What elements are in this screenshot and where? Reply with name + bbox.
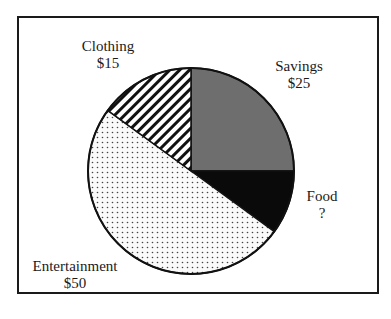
label-entertainment: Entertainment $50	[16, 258, 134, 292]
pie-slices	[88, 68, 294, 274]
label-savings: Savings $25	[254, 58, 344, 92]
label-clothing-name: Clothing	[63, 38, 153, 55]
label-savings-name: Savings	[254, 58, 344, 75]
label-entertainment-value: $50	[16, 275, 134, 292]
label-food-value: ?	[297, 205, 347, 222]
label-clothing: Clothing $15	[63, 38, 153, 72]
label-entertainment-name: Entertainment	[16, 258, 134, 275]
label-clothing-value: $15	[63, 55, 153, 72]
label-food: Food ?	[297, 188, 347, 222]
label-savings-value: $25	[254, 75, 344, 92]
label-food-name: Food	[297, 188, 347, 205]
